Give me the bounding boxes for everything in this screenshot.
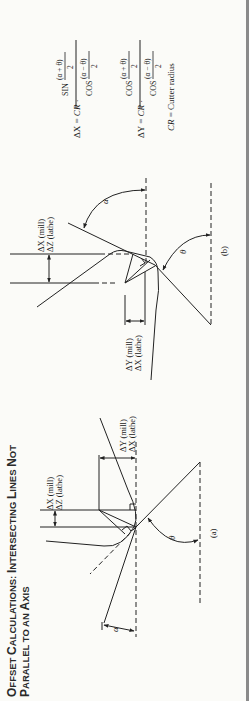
svg-text:COS: COS bbox=[149, 80, 158, 96]
diagram-b-caption: (b) bbox=[219, 246, 229, 256]
svg-text:ΔZ (lathe): ΔZ (lathe) bbox=[54, 475, 64, 510]
svg-text:(α + θ): (α + θ) bbox=[119, 58, 128, 79]
formula-dy: ΔY = CR · COS (α + θ) 2 COS (α − θ) 2 bbox=[119, 40, 163, 138]
svg-text:ΔX (lathe): ΔX (lathe) bbox=[133, 335, 143, 371]
diagram-a-radius-line bbox=[99, 510, 136, 527]
svg-text:2: 2 bbox=[66, 65, 75, 69]
diagram-b-dy-label: ΔY (mill) ΔX (lathe) bbox=[124, 335, 143, 371]
svg-text:PARALLEL TO AN AXIS: PARALLEL TO AN AXIS bbox=[18, 587, 32, 697]
svg-text:COS: COS bbox=[125, 80, 134, 96]
diagram-a-part-line-left bbox=[104, 527, 136, 623]
svg-text:ΔY = CR ·: ΔY = CR · bbox=[136, 100, 146, 138]
diagram-a-dx-label: ΔX (mill) ΔZ (lathe) bbox=[45, 475, 64, 510]
diagram-b-part-line-lower bbox=[155, 265, 211, 325]
diagram-b-dx-label: ΔX (mill) ΔZ (lathe) bbox=[36, 217, 55, 252]
formula-dx: ΔX = CR · SIN (α + θ) 2 COS (α − θ) 2 bbox=[55, 40, 99, 138]
page-title: OFFSET CALCULATIONS: INTERSECTING LINES … bbox=[5, 445, 19, 697]
svg-text:(α + θ): (α + θ) bbox=[55, 59, 64, 80]
diagram-b-theta-label: θ bbox=[178, 249, 188, 254]
svg-text:2: 2 bbox=[130, 64, 139, 68]
svg-text:2: 2 bbox=[90, 64, 99, 68]
diagram-b-alpha-arc bbox=[84, 190, 145, 228]
svg-text:ΔX = CR ·: ΔX = CR · bbox=[72, 99, 82, 138]
diagram-a-dy-label: ΔY (mill) ΔX (lathe) bbox=[118, 416, 137, 452]
formula-dy-denominator: COS (α − θ) 2 bbox=[143, 51, 163, 96]
svg-text:OFFSET CALCULATIONS: INTERSECT: OFFSET CALCULATIONS: INTERSECTING LINES … bbox=[5, 445, 19, 697]
svg-text:(α − θ): (α − θ) bbox=[79, 58, 88, 79]
svg-text:(α − θ): (α − θ) bbox=[143, 58, 152, 79]
page-title-line2: PARALLEL TO AN AXIS bbox=[18, 587, 32, 697]
diagram-a-alpha-label: α bbox=[110, 627, 120, 632]
formula-legend: CR = Cutter radius bbox=[166, 63, 176, 131]
diagram-canvas: OFFSET CALCULATIONS: INTERSECTING LINES … bbox=[0, 0, 249, 701]
svg-text:ΔZ (lathe): ΔZ (lathe) bbox=[45, 217, 55, 252]
formula-dy-numerator: COS (α + θ) 2 bbox=[119, 51, 139, 96]
svg-text:ΔX (lathe): ΔX (lathe) bbox=[127, 416, 137, 452]
formula-dx-denominator: COS (α − θ) 2 bbox=[79, 51, 99, 96]
diagram-b: α θ ΔX (mill) ΔZ (lathe) ΔY (mill) ΔX (l… bbox=[10, 178, 229, 380]
diagram-a-part-line-right bbox=[136, 462, 200, 527]
diagram-a: α θ ΔX (mill) ΔZ (lathe) ΔY (mill) ΔX (l… bbox=[40, 416, 218, 637]
diagram-b-alpha-label: α bbox=[100, 199, 110, 204]
svg-text:2: 2 bbox=[154, 64, 163, 68]
svg-text:SIN: SIN bbox=[61, 83, 70, 96]
formula-dx-numerator: SIN (α + θ) 2 bbox=[55, 52, 75, 96]
svg-text:COS: COS bbox=[85, 80, 94, 96]
diagram-a-theta-label: θ bbox=[167, 535, 177, 540]
diagram-a-caption: (a) bbox=[208, 528, 218, 538]
diagram-a-radius-line-2 bbox=[99, 510, 125, 534]
svg-text:CR = Cutter radius: CR = Cutter radius bbox=[166, 63, 176, 131]
